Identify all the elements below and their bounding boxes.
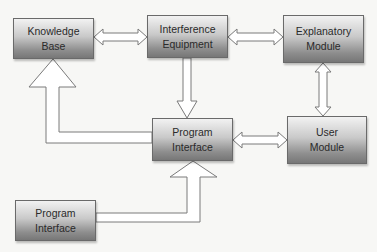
explanatory-module-label-line2: Module xyxy=(306,39,340,54)
arrow-ie-em xyxy=(228,29,283,45)
program-interface-bottom-box: Program Interface xyxy=(15,200,96,241)
arrow-ie-pi xyxy=(177,58,197,118)
expert-system-diagram: Knowledge Base Interference Equipment Ex… xyxy=(0,0,377,252)
user-module-box: User Module xyxy=(287,116,367,164)
arrow-pi-kb xyxy=(29,59,152,143)
arrow-em-um xyxy=(315,63,331,116)
arrow-pib-pi xyxy=(96,161,217,222)
interference-equipment-label-line1: Interference xyxy=(159,22,215,37)
program-interface-bottom-label-line1: Program xyxy=(35,206,75,221)
interference-equipment-box: Interference Equipment xyxy=(147,15,228,58)
arrow-pi-um xyxy=(233,132,287,148)
program-interface-center-box: Program Interface xyxy=(152,118,233,161)
program-interface-bottom-label-line2: Interface xyxy=(35,221,76,236)
knowledge-base-label-line2: Base xyxy=(42,39,66,54)
knowledge-base-label-line1: Knowledge xyxy=(28,24,80,39)
explanatory-module-box: Explanatory Module xyxy=(283,15,364,63)
program-interface-center-label-line2: Interface xyxy=(172,140,213,155)
interference-equipment-label-line2: Equipment xyxy=(162,37,212,52)
program-interface-center-label-line1: Program xyxy=(172,125,212,140)
explanatory-module-label-line1: Explanatory xyxy=(296,24,351,39)
user-module-label-line2: Module xyxy=(310,140,344,155)
knowledge-base-box: Knowledge Base xyxy=(13,18,94,59)
user-module-label-line1: User xyxy=(316,125,338,140)
arrow-kb-ie xyxy=(94,29,147,45)
